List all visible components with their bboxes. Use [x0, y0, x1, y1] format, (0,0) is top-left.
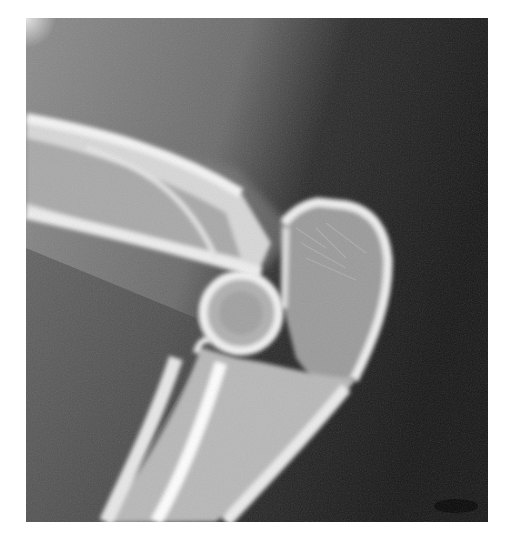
xray-image	[26, 18, 488, 522]
elbow-radiograph	[26, 18, 488, 522]
page-canvas	[0, 0, 509, 544]
